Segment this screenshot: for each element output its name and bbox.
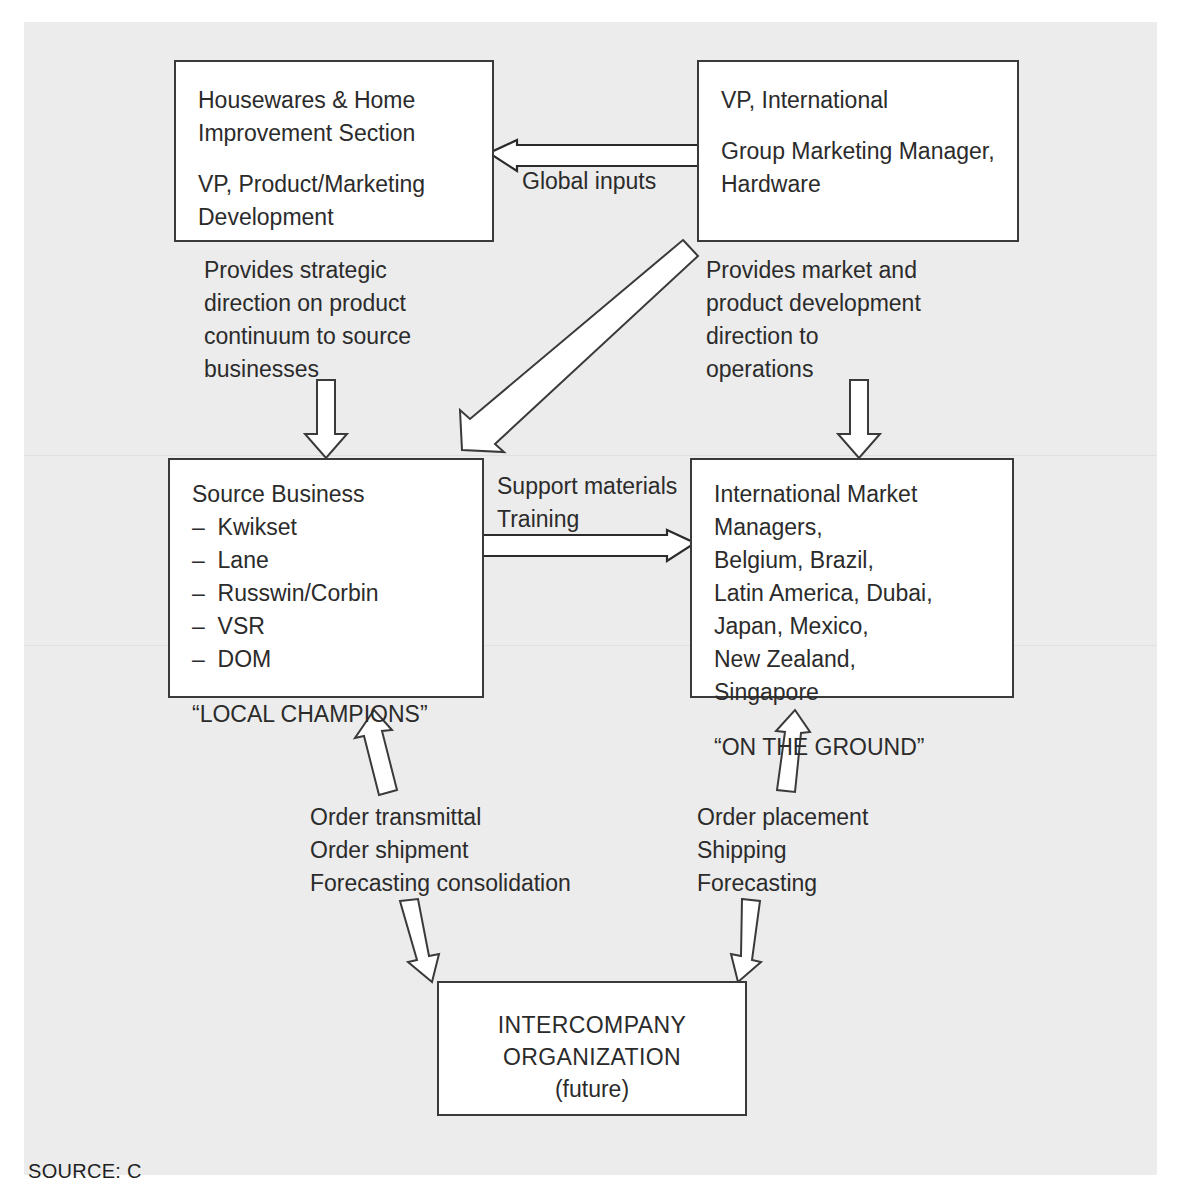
source-business-heading: Source Business bbox=[192, 478, 466, 511]
source-business-item: – Kwikset bbox=[192, 511, 466, 544]
source-business-item: – Russwin/Corbin bbox=[192, 577, 466, 610]
box-housewares-home-improvement: Housewares & Home Improvement Section VP… bbox=[174, 60, 494, 242]
housewares-line-3: VP, Product/Marketing bbox=[198, 168, 476, 201]
box-intercompany-organization: INTERCOMPANY ORGANIZATION (future) bbox=[437, 981, 747, 1116]
vp-intl-line-3: Hardware bbox=[721, 168, 1001, 201]
box-vp-international: VP, International Group Marketing Manage… bbox=[697, 60, 1019, 242]
intl-mgrs-line: New Zealand, bbox=[714, 643, 996, 676]
intl-mgrs-line: International Market Managers, bbox=[714, 478, 996, 544]
intl-mgrs-line: Latin America, Dubai, bbox=[714, 577, 996, 610]
housewares-line-4: Development bbox=[198, 201, 476, 234]
label-strategic-direction: Provides strategic direction on product … bbox=[204, 254, 504, 386]
intercompany-line-1: INTERCOMPANY bbox=[449, 1009, 735, 1041]
source-business-item: – Lane bbox=[192, 544, 466, 577]
source-caption: SOURCE: C bbox=[28, 1160, 142, 1182]
housewares-line-1: Housewares & Home bbox=[198, 84, 476, 117]
intl-mgrs-line: Belgium, Brazil, bbox=[714, 544, 996, 577]
intercompany-line-2: ORGANIZATION bbox=[449, 1041, 735, 1073]
source-business-item: – DOM bbox=[192, 643, 466, 676]
intl-mgrs-tagline: “ON THE GROUND” bbox=[714, 731, 996, 764]
label-order-placement: Order placement Shipping Forecasting bbox=[697, 801, 957, 900]
vp-intl-line-2: Group Marketing Manager, bbox=[721, 135, 1001, 168]
box-source-business: Source Business – Kwikset – Lane – Russw… bbox=[168, 458, 484, 698]
housewares-line-2: Improvement Section bbox=[198, 117, 476, 150]
arrow-strategic-direction-down bbox=[303, 378, 349, 460]
vp-intl-line-1: VP, International bbox=[721, 84, 1001, 117]
intl-mgrs-line: Singapore bbox=[714, 676, 996, 709]
intl-mgrs-line: Japan, Mexico, bbox=[714, 610, 996, 643]
label-order-transmittal: Order transmittal Order shipment Forecas… bbox=[310, 801, 640, 900]
spacer bbox=[721, 117, 1001, 135]
box-international-market-managers: International Market Managers, Belgium, … bbox=[690, 458, 1014, 698]
label-support-materials-training: Support materials Training bbox=[497, 470, 697, 536]
intercompany-line-3: (future) bbox=[449, 1073, 735, 1105]
label-global-inputs: Global inputs bbox=[522, 165, 656, 198]
arrow-right-to-intercompany-down bbox=[728, 898, 784, 984]
arrow-left-to-intercompany-down bbox=[396, 898, 452, 984]
source-business-item: – VSR bbox=[192, 610, 466, 643]
spacer bbox=[198, 150, 476, 168]
source-business-tagline: “LOCAL CHAMPIONS” bbox=[192, 698, 466, 731]
label-market-direction: Provides market and product development … bbox=[706, 254, 1006, 386]
arrow-market-direction-down bbox=[836, 378, 882, 460]
